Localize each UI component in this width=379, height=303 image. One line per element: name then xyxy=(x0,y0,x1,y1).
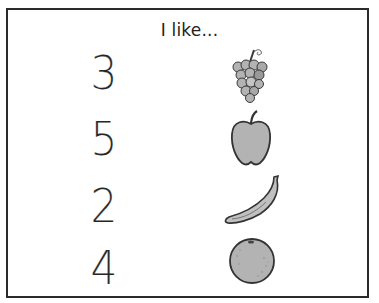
grape xyxy=(246,94,255,103)
banana-body xyxy=(225,176,278,223)
row-number: 2 xyxy=(86,183,123,229)
orange-navel xyxy=(248,240,254,243)
orange-body xyxy=(230,239,274,283)
grape xyxy=(254,70,264,80)
apple-body xyxy=(232,122,270,165)
apple-icon xyxy=(228,108,274,168)
grapes-icon xyxy=(228,46,272,104)
worksheet-frame xyxy=(6,8,369,298)
orange-icon xyxy=(228,236,276,286)
banana-icon xyxy=(222,172,282,226)
grapes-tendril xyxy=(254,50,262,55)
grape xyxy=(245,68,255,78)
row-number: 4 xyxy=(86,245,123,291)
row-number: 3 xyxy=(86,50,123,96)
row-number: 5 xyxy=(86,116,123,162)
worksheet-title: I like... xyxy=(0,20,379,40)
